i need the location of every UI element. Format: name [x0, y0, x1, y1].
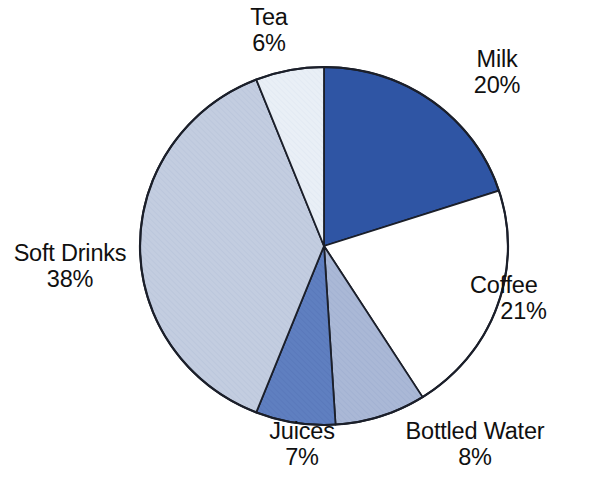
pie-label-tea-percent: 6% [189, 30, 349, 56]
pie-label-soft-drinks-percent: 38% [0, 266, 146, 292]
pie-label-milk-percent: 20% [417, 72, 577, 98]
pie-label-milk: Milk 20% [417, 46, 577, 99]
pie-label-juices: Juices 7% [222, 418, 382, 471]
pie-slices-group [140, 67, 508, 425]
pie-label-juices-name: Juices [222, 418, 382, 444]
pie-label-coffee: Coffee 21% [470, 272, 595, 325]
pie-label-bottled-water-percent: 8% [375, 444, 575, 470]
pie-label-juices-percent: 7% [222, 444, 382, 470]
pie-label-bottled-water: Bottled Water 8% [375, 418, 575, 471]
pie-chart: Tea 6% Milk 20% Coffee 21% Soft Drinks 3… [0, 0, 595, 478]
pie-label-tea: Tea 6% [189, 4, 349, 57]
pie-label-soft-drinks-name: Soft Drinks [0, 240, 146, 266]
pie-label-tea-name: Tea [189, 4, 349, 30]
pie-label-coffee-name: Coffee [470, 272, 595, 298]
pie-label-bottled-water-name: Bottled Water [375, 418, 575, 444]
pie-label-milk-name: Milk [417, 46, 577, 72]
pie-label-soft-drinks: Soft Drinks 38% [0, 240, 146, 293]
pie-label-coffee-percent: 21% [470, 298, 595, 324]
